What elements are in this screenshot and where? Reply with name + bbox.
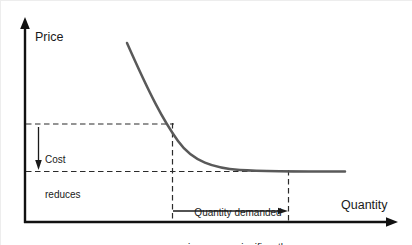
- cost-reduces-line-2: reduces: [45, 189, 81, 201]
- demand-curve: [127, 43, 345, 172]
- cost-reduces-arrowhead: [35, 160, 42, 170]
- x-axis-label: Quantity: [341, 198, 388, 212]
- quantity-demanded-annotation: Quantity demanded increases significantl…: [178, 184, 298, 245]
- y-axis-arrowhead: [20, 17, 30, 29]
- y-axis-label: Price: [35, 30, 63, 44]
- quantity-demanded-line-2: increases significantly: [178, 242, 298, 245]
- x-axis-arrowhead: [386, 217, 398, 227]
- demand-curve-chart: Price Quantity Cost reduces Quantity dem…: [0, 0, 412, 245]
- cost-reduces-line-1: Cost: [45, 154, 81, 166]
- cost-reduces-annotation: Cost reduces: [45, 131, 81, 223]
- quantity-demanded-line-1: Quantity demanded: [178, 207, 298, 219]
- cost-reduces-arrow: [35, 127, 42, 170]
